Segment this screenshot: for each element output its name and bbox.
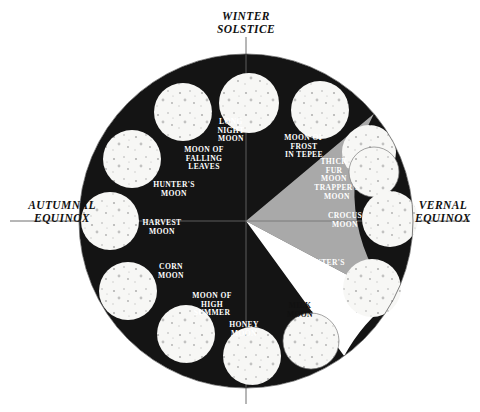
moon-label-line: MOON (158, 271, 184, 280)
moon-disc-crocus-moon (362, 191, 418, 247)
season-label-autumnal-equinox: AUTUMNALEQUINOX (27, 199, 96, 224)
moon-label-corn-moon: CORNMOON (158, 262, 184, 280)
season-label-line: EQUINOX (33, 212, 90, 224)
moon-label-line: MOON (161, 189, 187, 198)
moon-disc-moon-of-frost-in-tepee (291, 81, 349, 139)
moon-label-honey-moon: HONEYMOON (229, 320, 259, 338)
moon-label-line: MOON (309, 267, 335, 276)
moon-disc-milk-moon (283, 313, 339, 369)
moon-disc-moon-of-falling-leaves (154, 83, 212, 141)
moon-label-line: MOON (332, 220, 358, 229)
moon-label-long-night-moon: LONGNIGHTMOON (217, 117, 244, 143)
moon-label-line: SUMMER (194, 308, 231, 317)
season-label-line: VERNAL (419, 199, 467, 211)
moon-label-line: MOON (231, 329, 257, 338)
moon-label-line: MOON (218, 134, 244, 143)
moon-label-moon-of-falling-leaves: MOON OFFALLINGLEAVES (184, 145, 223, 171)
moon-disc-corn-moon (99, 262, 157, 320)
moon-label-line: IN TEPEE (285, 150, 323, 159)
season-label-line: AUTUMNAL (27, 199, 96, 211)
moon-label-milk-moon: MILKMOON (287, 301, 313, 319)
season-label-vernal-equinox: VERNALEQUINOX (414, 199, 471, 224)
moon-label-line: MOON (321, 174, 347, 183)
moon-calendar-figure: LONGNIGHTMOONMOON OFFROSTIN TEPEETHICKFU… (0, 0, 480, 412)
season-label-line: WINTER (222, 10, 270, 22)
season-label-winter-solstice: WINTERSOLSTICE (217, 10, 275, 35)
season-label-line: EQUINOX (414, 212, 471, 224)
moon-wheel-svg: LONGNIGHTMOONMOON OFFROSTIN TEPEETHICKFU… (0, 0, 480, 412)
moon-label-line: MOON (149, 227, 175, 236)
moon-label-line: MOON (324, 192, 350, 201)
season-label-line: SOLSTICE (217, 23, 275, 35)
moon-label-line: MOON (287, 310, 313, 319)
moon-disc-planters-moon (343, 259, 401, 317)
moon-label-line: LEAVES (188, 162, 220, 171)
moon-label-crocus-moon: CROCUSMOON (328, 211, 362, 229)
